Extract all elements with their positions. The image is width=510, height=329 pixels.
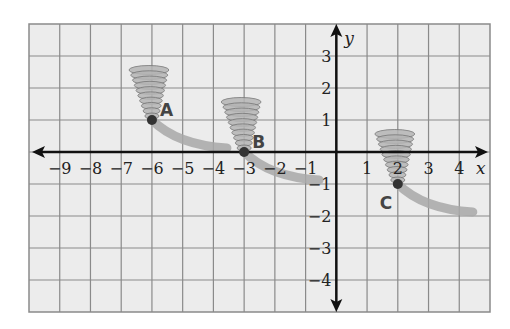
y-tick-label: −1	[308, 175, 332, 194]
x-tick-label: −6	[140, 159, 164, 178]
x-tick-label: 2	[393, 159, 403, 178]
x-tick-label: 4	[454, 159, 464, 178]
point-b	[239, 147, 249, 157]
x-tick-label: −2	[263, 159, 287, 178]
y-tick-label: 1	[321, 111, 331, 130]
coordinate-plane: −9−8−7−6−5−4−3−2−11234321−1−2−3−4xy ABC	[0, 0, 510, 329]
y-tick-label: −4	[308, 271, 332, 290]
x-tick-label: −3	[232, 159, 256, 178]
y-tick-label: 2	[321, 79, 331, 98]
point-label-a: A	[160, 100, 174, 120]
x-axis-label: x	[476, 158, 486, 178]
x-tick-label: 3	[423, 159, 433, 178]
y-tick-label: −3	[308, 239, 332, 258]
point-label-c: C	[380, 193, 392, 213]
point-a	[147, 115, 157, 125]
x-tick-label: 1	[362, 159, 372, 178]
y-tick-label: −2	[308, 207, 332, 226]
y-tick-label: 3	[321, 47, 331, 66]
x-tick-label: −8	[79, 159, 103, 178]
point-label-b: B	[252, 132, 265, 152]
point-c	[393, 179, 403, 189]
x-tick-label: −5	[171, 159, 195, 178]
x-tick-label: −4	[202, 159, 226, 178]
y-axis-label: y	[343, 28, 354, 48]
x-tick-label: −9	[48, 159, 72, 178]
x-tick-label: −7	[109, 159, 133, 178]
